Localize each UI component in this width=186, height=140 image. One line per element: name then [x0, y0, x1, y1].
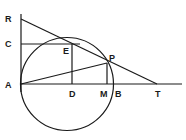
line-RT: [21, 19, 157, 84]
label-B: B: [115, 89, 122, 99]
geometry-diagram: R C A E D P M B T: [0, 0, 186, 140]
label-P: P: [109, 53, 115, 63]
label-T: T: [155, 89, 161, 99]
label-C: C: [5, 39, 12, 49]
label-A: A: [5, 80, 12, 90]
label-E: E: [63, 46, 69, 56]
chord-AP: [21, 63, 107, 84]
label-M: M: [100, 89, 108, 99]
label-R: R: [5, 14, 12, 24]
diagram-svg: R C A E D P M B T: [0, 0, 186, 140]
label-D: D: [69, 89, 76, 99]
